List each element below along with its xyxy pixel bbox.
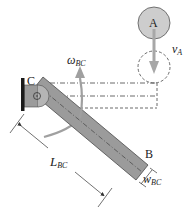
label-width: wBC bbox=[143, 172, 162, 187]
pin-c bbox=[24, 85, 49, 107]
label-velocity-a: vA bbox=[172, 42, 182, 57]
label-length: LBC bbox=[49, 154, 68, 170]
wall bbox=[21, 78, 25, 111]
label-b: B bbox=[145, 147, 153, 161]
label-c: C bbox=[27, 74, 35, 88]
label-a: A bbox=[149, 16, 158, 30]
mechanism-diagram: C A B vA ωBC LBC wBC bbox=[0, 0, 190, 209]
label-omega: ωBC bbox=[67, 53, 86, 68]
